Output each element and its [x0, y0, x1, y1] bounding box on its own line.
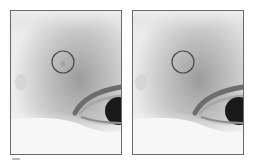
after-image-panel [132, 10, 244, 155]
before-photo [11, 11, 121, 154]
caption-mark [12, 158, 20, 160]
before-image-panel [10, 10, 122, 155]
after-photo [133, 11, 243, 154]
